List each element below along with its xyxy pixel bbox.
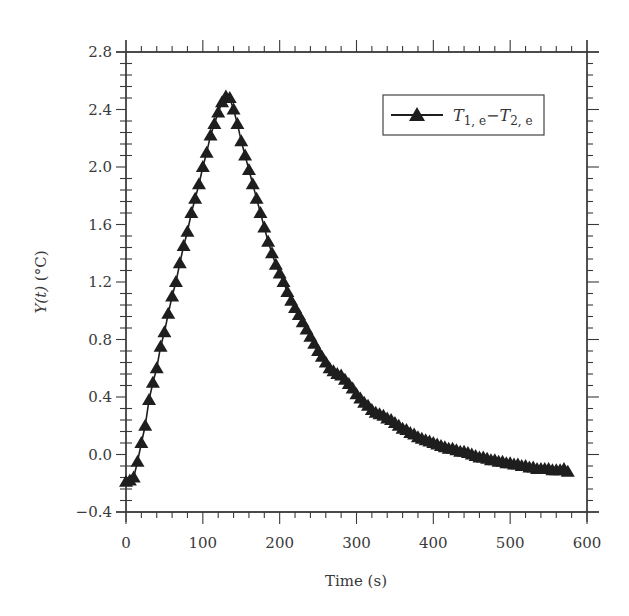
data-series — [119, 90, 575, 487]
y-tick-label: 1.2 — [88, 273, 112, 291]
y-tick-label: 2.4 — [88, 101, 112, 119]
triangle-marker-icon — [227, 103, 241, 115]
triangle-marker-icon — [250, 192, 264, 204]
triangle-marker-icon — [157, 325, 171, 337]
triangle-marker-icon — [142, 393, 156, 405]
y-axis-title: Y(t) (°C) — [32, 250, 50, 313]
triangle-marker-icon — [184, 206, 198, 218]
triangle-marker-icon — [261, 235, 275, 247]
triangle-marker-icon — [230, 117, 244, 129]
x-tick-label: 0 — [121, 534, 131, 552]
triangle-marker-icon — [173, 256, 187, 268]
triangle-marker-icon — [150, 361, 164, 373]
triangle-marker-icon — [188, 192, 202, 204]
y-tick-label: −0.4 — [76, 503, 112, 521]
triangle-marker-icon — [200, 146, 214, 158]
x-tick-label: 500 — [496, 534, 525, 552]
y-tick-label: 2.8 — [88, 43, 112, 61]
triangle-marker-icon — [246, 177, 260, 189]
y-tick-label: 0.8 — [88, 331, 112, 349]
triangle-marker-icon — [138, 419, 152, 431]
triangle-marker-icon — [238, 149, 252, 161]
triangle-marker-icon — [265, 246, 279, 258]
triangle-marker-icon — [146, 376, 160, 388]
x-tick-label: 200 — [265, 534, 294, 552]
x-tick-label: 400 — [419, 534, 448, 552]
triangle-marker-icon — [242, 163, 256, 175]
triangle-marker-icon — [196, 160, 210, 172]
x-tick-label: 600 — [573, 534, 602, 552]
triangle-marker-icon — [177, 239, 191, 251]
chart-canvas: −0.40.00.40.81.21.62.02.42.8 01002003004… — [0, 0, 629, 616]
triangle-marker-icon — [154, 340, 168, 352]
legend: T1, e−T2, e — [383, 95, 544, 135]
triangle-marker-icon — [269, 258, 283, 270]
triangle-marker-icon — [204, 128, 218, 140]
y-tick-label: 2.0 — [88, 158, 112, 176]
triangle-marker-icon — [234, 134, 248, 146]
y-tick-label: 0.0 — [88, 446, 112, 464]
series-line — [126, 97, 568, 482]
triangle-marker-icon — [134, 436, 148, 448]
y-tick-label: 0.4 — [88, 388, 112, 406]
triangle-marker-icon — [165, 289, 179, 301]
x-tick-label: 100 — [189, 534, 218, 552]
triangle-marker-icon — [131, 455, 145, 467]
triangle-marker-icon — [253, 206, 267, 218]
y-tick-label: 1.6 — [88, 216, 112, 234]
x-tick-label: 300 — [342, 534, 371, 552]
triangle-marker-icon — [180, 225, 194, 237]
x-axis-title: Time (s) — [325, 572, 387, 590]
triangle-marker-icon — [161, 307, 175, 319]
triangle-marker-icon — [192, 177, 206, 189]
triangle-marker-icon — [257, 220, 271, 232]
triangle-marker-icon — [207, 117, 221, 129]
triangle-marker-icon — [169, 275, 183, 287]
